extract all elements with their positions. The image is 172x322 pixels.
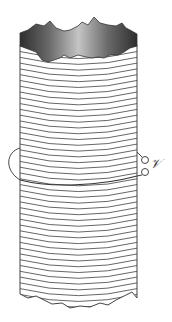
pickup-lead-bottom	[137, 175, 142, 176]
solenoid-diagram	[0, 0, 172, 322]
pickup-loop-front	[20, 176, 137, 185]
pickup-loop-left	[9, 148, 20, 180]
solenoid-windings	[20, 40, 137, 313]
terminal-top	[142, 157, 149, 164]
terminal-bottom	[142, 169, 149, 176]
winding-turn	[20, 306, 137, 313]
solenoid-bottom-edge	[20, 292, 137, 308]
voltage-label: 𝒱	[150, 156, 161, 172]
pickup-lead-top	[137, 152, 142, 157]
